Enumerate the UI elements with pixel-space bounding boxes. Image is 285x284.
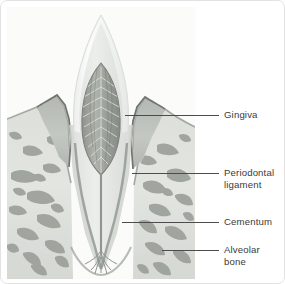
leader-line-gingiva — [197, 115, 219, 116]
leader-line-cementum — [197, 222, 219, 223]
label-periodontal-ligament: Periodontal ligament — [224, 167, 274, 190]
leader-line-alveolar-bone-inner — [162, 250, 197, 251]
leader-line-cementum-inner — [122, 222, 197, 223]
tooth-cross-section-illustration — [7, 7, 195, 279]
leader-line-periodontal-ligament — [197, 173, 219, 174]
figure-frame: Gingiva Periodontal ligament Cementum Al… — [0, 0, 285, 284]
label-cementum: Cementum — [224, 216, 272, 228]
leader-line-periodontal-ligament-inner — [132, 173, 197, 174]
label-alveolar-bone: Alveolar bone — [224, 244, 260, 267]
leader-line-alveolar-bone — [197, 250, 219, 251]
label-gingiva: Gingiva — [224, 109, 258, 121]
leader-line-gingiva-inner — [125, 115, 197, 116]
